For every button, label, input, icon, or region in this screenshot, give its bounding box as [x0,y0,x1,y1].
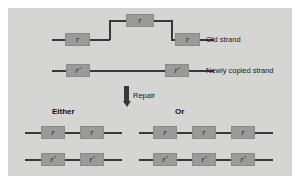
outcome-heading-either: Either [52,107,75,116]
either-old-marker-box: r [41,126,65,139]
either-new-marker-box: r′ [41,153,65,166]
new-strand-marker-box: r′ [165,64,189,77]
or-new-marker-box: r′ [231,153,255,166]
old-strand-riser-right [171,20,173,40]
newly-copied-strand-label: Newly copied strand [206,66,274,75]
old-strand-marker-box: r [175,33,200,46]
old-strand-riser-left [109,20,111,40]
either-new-marker-box: r′ [80,153,104,166]
repair-arrow-head [123,101,131,107]
or-new-marker-box: r′ [192,153,216,166]
or-new-marker-box: r′ [153,153,177,166]
or-old-marker-box: r [231,126,255,139]
old-strand-marker-box: r [126,14,154,27]
repair-label: Repair [133,91,155,100]
or-old-marker-box: r [153,126,177,139]
repair-arrow-shaft [124,86,129,102]
old-strand-marker-box: r [65,33,90,46]
new-strand-marker-box: r′ [66,64,90,77]
either-old-marker-box: r [80,126,104,139]
dna-mismatch-repair-diagram: r r r Old strand r′ r′ Newly copied stra… [0,0,299,187]
old-strand-label: Old strand [206,35,241,44]
or-old-marker-box: r [192,126,216,139]
either-old-row-line [25,132,122,134]
outcome-heading-or: Or [175,107,184,116]
diagram-panel: r r r Old strand r′ r′ Newly copied stra… [8,8,292,176]
either-new-row-line [25,159,122,161]
